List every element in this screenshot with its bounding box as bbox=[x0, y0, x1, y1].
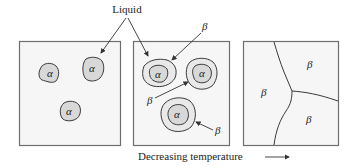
beta-grain-label: β bbox=[260, 86, 267, 98]
temperature-axis: Decreasing temperature bbox=[138, 150, 289, 162]
beta-label: β bbox=[201, 20, 208, 32]
panel-3-solid-beta: β β β bbox=[244, 42, 339, 146]
beta-grain-label: β bbox=[306, 58, 313, 70]
alpha-label: α bbox=[199, 67, 205, 79]
liquid-label: Liquid bbox=[112, 3, 142, 15]
alpha-label: α bbox=[66, 105, 72, 117]
beta-label: β bbox=[146, 94, 153, 106]
panel-2-beta-forming: α α α β β β bbox=[134, 20, 230, 146]
alpha-label: α bbox=[89, 62, 95, 74]
panel-1-liquid-with-alpha: α α α bbox=[20, 42, 121, 146]
beta-grain-label: β bbox=[305, 113, 312, 125]
beta-label: β bbox=[214, 124, 221, 136]
alpha-label: α bbox=[155, 68, 161, 80]
phase-diagram-figure: α α α α α α β β β β β β bbox=[0, 0, 353, 166]
alpha-label: α bbox=[47, 67, 53, 79]
axis-label: Decreasing temperature bbox=[138, 150, 243, 162]
alpha-label: α bbox=[174, 108, 180, 120]
